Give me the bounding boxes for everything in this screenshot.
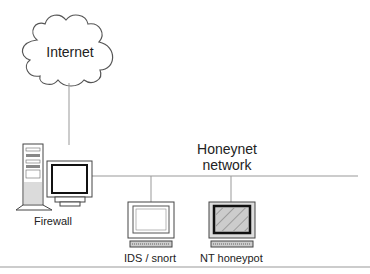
nt-honeypot-label: NT honeypot [200, 252, 263, 264]
honeynet-label-line1: Honeynet [182, 141, 272, 158]
network-diagram [0, 0, 370, 274]
internet-label: Internet [40, 44, 100, 61]
ids-computer-icon [128, 202, 174, 247]
ids-label: IDS / snort [124, 252, 176, 264]
firewall-label: Firewall [34, 215, 72, 227]
nt-honeypot-computer-icon [209, 202, 255, 247]
firewall-computer-icon [16, 144, 92, 210]
honeynet-label-line2: network [182, 157, 272, 174]
